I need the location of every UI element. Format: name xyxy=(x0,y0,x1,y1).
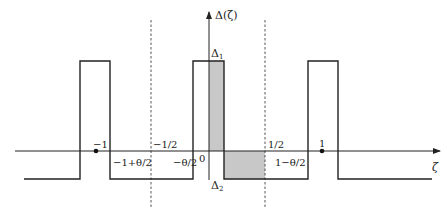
delta2-label: Δ2 xyxy=(211,179,223,193)
tick-label-one: 1 xyxy=(319,138,325,149)
shaded-region-upper xyxy=(209,61,224,151)
delta1-label: Δ1 xyxy=(211,47,223,61)
x-axis-label: ζ xyxy=(432,161,439,174)
tick-label-minus-one: −1 xyxy=(93,139,108,150)
point-one xyxy=(320,149,325,154)
tick-label-zero: 0 xyxy=(199,153,205,164)
step-function-diagram: Δ(ζ) ζ Δ1 Δ2 −1 −1/2 1/2 1 0 −1+θ/2 −θ/2… xyxy=(0,0,448,218)
tick-label-minus-one-plus-theta-half: −1+θ/2 xyxy=(113,157,152,168)
tick-label-one-minus-theta-half: 1−θ/2 xyxy=(275,157,306,168)
tick-label-half: 1/2 xyxy=(268,139,284,150)
shaded-region-lower xyxy=(224,151,265,179)
tick-label-minus-theta-half: −θ/2 xyxy=(173,157,197,168)
y-axis-label: Δ(ζ) xyxy=(215,9,238,22)
tick-label-minus-half: −1/2 xyxy=(153,139,177,150)
